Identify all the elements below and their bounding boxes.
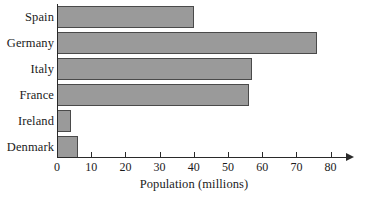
bar-chart: Spain Germany Italy France Ireland Denma… bbox=[0, 0, 370, 198]
category-label-ireland: Ireland bbox=[0, 115, 54, 128]
x-tick-label-70: 70 bbox=[290, 161, 302, 173]
category-label-france: France bbox=[0, 89, 54, 102]
x-tick-60 bbox=[262, 152, 263, 157]
bar-ireland bbox=[57, 110, 71, 132]
x-tick-0 bbox=[57, 152, 58, 157]
x-tick-30 bbox=[160, 152, 161, 157]
category-label-italy: Italy bbox=[0, 63, 54, 76]
x-axis-title: Population (millions) bbox=[0, 178, 370, 191]
x-tick-label-0: 0 bbox=[54, 161, 60, 173]
bar-spain bbox=[57, 6, 194, 28]
x-tick-40 bbox=[194, 152, 195, 157]
x-tick-50 bbox=[228, 152, 229, 157]
x-tick-label-40: 40 bbox=[188, 161, 200, 173]
x-tick-label-30: 30 bbox=[154, 161, 166, 173]
x-tick-20 bbox=[125, 152, 126, 157]
bar-france bbox=[57, 84, 249, 106]
category-label-spain: Spain bbox=[0, 11, 54, 24]
bar-italy bbox=[57, 58, 252, 80]
x-tick-label-20: 20 bbox=[119, 161, 131, 173]
x-tick-10 bbox=[91, 152, 92, 157]
category-label-denmark: Denmark bbox=[0, 141, 54, 154]
x-tick-label-80: 80 bbox=[325, 161, 337, 173]
x-axis-line bbox=[57, 157, 348, 158]
bar-germany bbox=[57, 32, 317, 54]
x-axis-arrow-icon bbox=[346, 153, 354, 161]
category-label-germany: Germany bbox=[0, 37, 54, 50]
plot-area bbox=[57, 0, 357, 158]
x-tick-label-50: 50 bbox=[222, 161, 234, 173]
x-axis-title-text: Population (millions) bbox=[140, 178, 249, 191]
y-axis-line bbox=[57, 4, 58, 158]
x-tick-label-10: 10 bbox=[85, 161, 97, 173]
bar-denmark bbox=[57, 136, 78, 158]
x-tick-70 bbox=[296, 152, 297, 157]
x-tick-80 bbox=[331, 152, 332, 157]
x-tick-label-60: 60 bbox=[256, 161, 268, 173]
